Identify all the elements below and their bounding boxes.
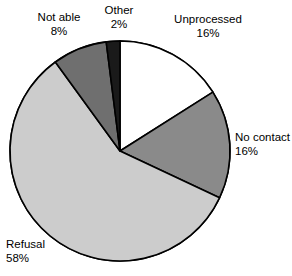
pie-label-no-contact: No contact 16% [235,130,292,158]
pie-label-refusal-value: 58% [6,251,64,265]
pie-label-refusal: Refusal 58% [6,237,64,265]
pie-label-not-able-value: 8% [26,24,92,38]
pie-label-not-able-text: Not able [26,10,92,24]
pie-slice-group [10,41,230,261]
pie-label-no-contact-text: No contact [235,130,292,144]
pie-label-unprocessed-text: Unprocessed [162,12,254,26]
pie-label-not-able: Not able 8% [26,10,92,38]
pie-label-unprocessed: Unprocessed 16% [162,12,254,40]
pie-chart-figure: Not able 8% Other 2% Unprocessed 16% No … [0,0,292,276]
pie-label-unprocessed-value: 16% [162,26,254,40]
pie-label-other-value: 2% [96,17,142,31]
pie-label-refusal-text: Refusal [6,237,64,251]
pie-label-other: Other 2% [96,3,142,31]
pie-label-no-contact-value: 16% [235,144,292,158]
pie-label-other-text: Other [96,3,142,17]
